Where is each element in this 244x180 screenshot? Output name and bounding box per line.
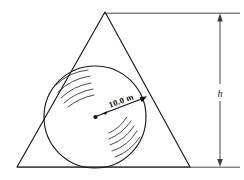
figure-background — [0, 0, 244, 180]
height-label: h — [218, 88, 223, 99]
geometry-figure: 10.0 m h — [0, 0, 244, 180]
figure-canvas: 10.0 m h — [0, 0, 244, 180]
circle-center-dot — [93, 115, 97, 119]
